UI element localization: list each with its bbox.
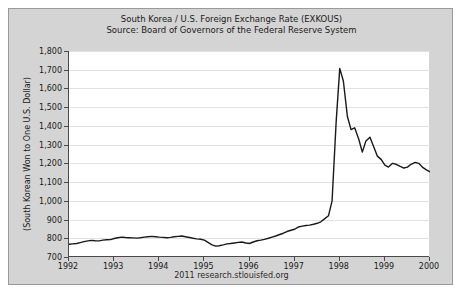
x-tick-mark bbox=[203, 257, 204, 261]
y-tick-label: 1,700 bbox=[39, 65, 62, 74]
x-tick-label: 1998 bbox=[329, 262, 349, 271]
x-tick-mark bbox=[294, 257, 295, 261]
x-tick-mark bbox=[384, 257, 385, 261]
chart-subtitle: Source: Board of Governors of the Federa… bbox=[9, 25, 454, 36]
y-tick-label: 800 bbox=[47, 234, 62, 243]
x-tick-label: 1993 bbox=[103, 262, 123, 271]
y-tick-mark bbox=[64, 126, 68, 127]
y-tick-mark bbox=[64, 51, 68, 52]
chart-panel: South Korea / U.S. Foreign Exchange Rate… bbox=[8, 8, 453, 285]
x-tick-mark bbox=[68, 257, 69, 261]
y-tick-mark bbox=[64, 220, 68, 221]
y-tick-mark bbox=[64, 182, 68, 183]
plot-area bbox=[68, 51, 429, 257]
y-tick-mark bbox=[64, 163, 68, 164]
y-tick-label: 1,400 bbox=[39, 121, 62, 130]
series-line-exkous bbox=[69, 51, 430, 257]
x-tick-mark bbox=[158, 257, 159, 261]
y-tick-mark bbox=[64, 201, 68, 202]
x-tick-label: 1996 bbox=[238, 262, 258, 271]
y-tick-label: 900 bbox=[47, 215, 62, 224]
plot-wrapper: 1,8001,7001,6001,5001,4001,3001,2001,100… bbox=[68, 51, 429, 257]
chart-footer: 2011 research.stlouisfed.org bbox=[9, 271, 454, 280]
x-tick-mark bbox=[429, 257, 430, 261]
x-tick-label: 1995 bbox=[193, 262, 213, 271]
x-tick-mark bbox=[339, 257, 340, 261]
y-tick-label: 1,100 bbox=[39, 178, 62, 187]
y-tick-label: 1,200 bbox=[39, 159, 62, 168]
y-tick-mark bbox=[64, 145, 68, 146]
chart-title-block: South Korea / U.S. Foreign Exchange Rate… bbox=[9, 14, 454, 36]
x-tick-label: 1997 bbox=[283, 262, 303, 271]
y-tick-mark bbox=[64, 70, 68, 71]
y-tick-label: 700 bbox=[47, 253, 62, 262]
y-axis-title: (South Korean Won to One U.S. Dollar) bbox=[23, 0, 32, 51]
y-tick-mark bbox=[64, 88, 68, 89]
y-tick-label: 1,000 bbox=[39, 196, 62, 205]
y-tick-mark bbox=[64, 238, 68, 239]
y-tick-label: 1,600 bbox=[39, 84, 62, 93]
y-tick-label: 1,300 bbox=[39, 140, 62, 149]
x-tick-label: 1992 bbox=[58, 262, 78, 271]
x-tick-mark bbox=[113, 257, 114, 261]
y-tick-label: 1,500 bbox=[39, 103, 62, 112]
y-tick-label: 1,800 bbox=[39, 47, 62, 56]
x-tick-mark bbox=[249, 257, 250, 261]
x-tick-label: 2000 bbox=[419, 262, 439, 271]
x-tick-label: 1999 bbox=[374, 262, 394, 271]
x-tick-label: 1994 bbox=[148, 262, 168, 271]
chart-title: South Korea / U.S. Foreign Exchange Rate… bbox=[9, 14, 454, 25]
y-tick-mark bbox=[64, 107, 68, 108]
